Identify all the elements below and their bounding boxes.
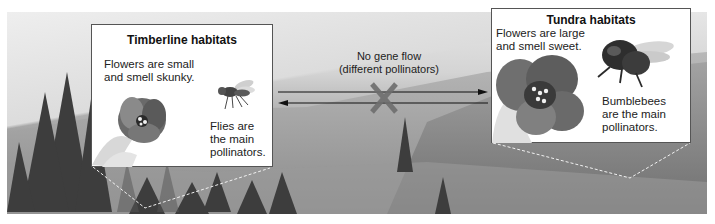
large-flower-icon (492, 49, 592, 143)
gene-flow-arrows (270, 80, 500, 120)
x-mark-icon (372, 84, 396, 112)
bumblebee-icon (592, 31, 678, 91)
timberline-flower-line-1: Flowers are small (104, 58, 195, 71)
timberline-pollinator-line-2: the main (210, 133, 266, 146)
tundra-pollinator-line-1: Bumblebees (602, 95, 666, 108)
small-flower-icon (92, 85, 182, 167)
timberline-flower-line-2: and smell skunky. (104, 71, 195, 84)
fly-icon (216, 77, 258, 111)
tundra-pollinator-line-2: are the main (602, 108, 666, 121)
no-gene-flow-line-2: (different pollinators) (334, 63, 444, 76)
timberline-pollinator-line-3: pollinators. (210, 146, 266, 159)
tundra-pollinator-line-3: pollinators. (602, 121, 666, 134)
tundra-flower-line-1: Flowers are large (496, 27, 585, 40)
timberline-pollinator-line-1: Flies are (210, 120, 266, 133)
timberline-flower-text: Flowers are small and smell skunky. (104, 58, 195, 84)
tundra-pollinator-text: Bumblebees are the main pollinators. (602, 95, 666, 134)
timberline-pollinator-text: Flies are the main pollinators. (210, 120, 266, 159)
no-gene-flow-label: No gene flow (different pollinators) (334, 50, 444, 76)
tundra-title: Tundra habitats (492, 13, 690, 27)
timberline-title: Timberline habitats (92, 33, 272, 47)
no-gene-flow-line-1: No gene flow (334, 50, 444, 63)
timberline-habitat-panel: Timberline habitats Flowers are small an… (91, 24, 273, 167)
tundra-habitat-panel: Tundra habitats Flowers are large and sm… (491, 8, 691, 143)
